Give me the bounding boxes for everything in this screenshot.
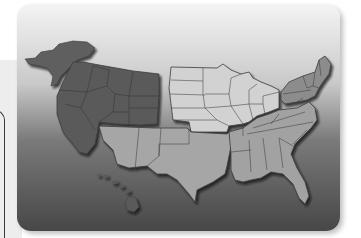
- stage: [0, 0, 361, 238]
- us-regions-map-panel: [17, 4, 340, 231]
- left-panel-border: [0, 110, 5, 238]
- us-map: [17, 4, 340, 231]
